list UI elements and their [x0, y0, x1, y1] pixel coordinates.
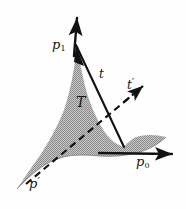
- label-p0: p0: [136, 155, 150, 170]
- label-region-T: T: [76, 95, 85, 109]
- label-p0-sub: 0: [144, 161, 149, 170]
- label-p1-sub: 1: [60, 44, 65, 53]
- vector-figure: [0, 0, 186, 209]
- label-t: t: [99, 68, 104, 80]
- label-p-prime-mark: ′: [37, 175, 40, 188]
- label-t-prime: t′: [127, 78, 134, 91]
- figure-canvas: p1 p0 p′ t t′ T: [0, 0, 186, 209]
- label-p1: p1: [52, 38, 66, 53]
- label-t-prime-mark: ′: [132, 77, 134, 88]
- label-p-prime: p′: [29, 176, 40, 190]
